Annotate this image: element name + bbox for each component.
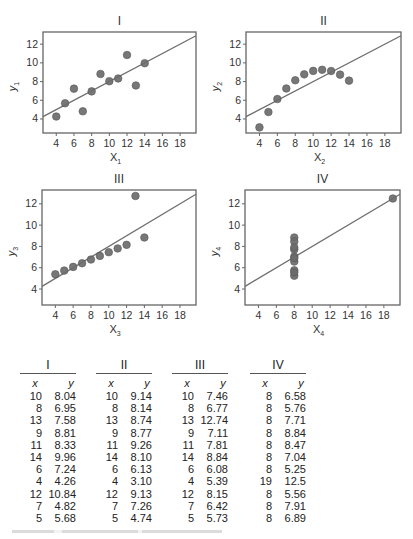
column-header-y: y	[46, 376, 84, 390]
column-header-x: x	[172, 376, 198, 390]
cell-x: 14	[20, 451, 42, 463]
data-point	[97, 70, 105, 78]
panel-title: III	[114, 172, 124, 186]
x-tick-label: 8	[291, 309, 297, 321]
data-point	[114, 245, 122, 253]
cell-x: 8	[96, 402, 118, 414]
cell-x: 13	[20, 414, 42, 426]
cell-y: 8.84	[272, 427, 306, 439]
cell-x: 4	[172, 475, 194, 487]
data-point	[318, 66, 326, 74]
x-tick-label: 18	[378, 309, 390, 321]
regression-line	[245, 194, 400, 286]
cell-x: 19	[250, 475, 272, 487]
y-axis-label: y2	[209, 82, 223, 93]
cell-y: 7.46	[194, 390, 228, 402]
cell-y: 3.10	[118, 475, 152, 487]
table-row: 138.74	[96, 414, 160, 426]
cell-x: 5	[96, 512, 118, 524]
data-point	[327, 67, 335, 75]
cell-x: 8	[20, 402, 42, 414]
table-row: 67.24	[20, 463, 84, 475]
y-tick-label: 8	[234, 240, 240, 252]
cell-y: 7.11	[194, 427, 228, 439]
cell-x: 8	[250, 512, 272, 524]
x-tick-label: 18	[174, 137, 186, 149]
y-tick-label: 10	[25, 219, 37, 231]
data-table-I: Ixy108.0486.95137.5898.81118.33149.9667.…	[20, 358, 84, 524]
table-row: 55.73	[172, 512, 236, 524]
x-tick-label: 16	[360, 309, 372, 321]
column-header-y: y	[198, 376, 236, 390]
data-point	[88, 88, 96, 96]
x-tick-label: 12	[121, 137, 133, 149]
table-row: 129.13	[96, 488, 160, 500]
table-row: 86.89	[250, 512, 314, 524]
cell-x: 12	[96, 488, 118, 500]
data-point	[141, 59, 149, 67]
data-point	[132, 82, 140, 90]
data-point	[256, 124, 264, 132]
y-tick-label: 6	[31, 261, 37, 273]
x-tick-label: 14	[343, 137, 355, 149]
cell-y: 8.33	[42, 439, 76, 451]
x-axis-label: X2	[314, 151, 325, 165]
table-row: 87.04	[250, 451, 314, 463]
data-point	[141, 234, 149, 242]
table-title-rule	[20, 373, 76, 374]
x-tick-label: 10	[306, 309, 318, 321]
scatter-panel-IV: IV46810121416184681012X4y4	[208, 172, 400, 337]
cell-x: 12	[20, 488, 42, 500]
y-axis-label: y1	[6, 82, 20, 93]
data-point	[336, 71, 344, 79]
x-tick-label: 16	[361, 137, 373, 149]
table-row: 98.77	[96, 427, 160, 439]
data-point	[265, 108, 273, 116]
cell-x: 4	[96, 475, 118, 487]
data-point	[52, 113, 60, 121]
data-table-IV: IVxy86.5885.7687.7188.8488.4787.0485.251…	[250, 358, 314, 524]
column-header-x: x	[250, 376, 276, 390]
x-tick-label: 18	[174, 309, 186, 321]
cell-y: 5.68	[42, 512, 76, 524]
table-title: II	[96, 358, 152, 372]
cell-y: 9.26	[118, 439, 152, 451]
column-header-x: x	[96, 376, 122, 390]
x-tick-label: 6	[274, 137, 280, 149]
cell-x: 5	[172, 512, 194, 524]
cell-x: 8	[250, 463, 272, 475]
cell-y: 4.82	[42, 500, 76, 512]
x-tick-label: 10	[307, 137, 319, 149]
cell-y: 7.81	[194, 439, 228, 451]
column-header-y: y	[122, 376, 160, 390]
cell-x: 13	[172, 414, 194, 426]
cell-y: 6.89	[272, 512, 306, 524]
cell-x: 4	[20, 475, 42, 487]
data-point	[61, 99, 69, 107]
x-tick-label: 10	[103, 137, 115, 149]
table-row: 85.76	[250, 402, 314, 414]
table-column-headers: xy	[172, 376, 236, 390]
cell-x: 6	[20, 463, 42, 475]
x-tick-label: 4	[52, 309, 58, 321]
cell-x: 14	[172, 451, 194, 463]
cell-y: 6.42	[194, 500, 228, 512]
x-tick-label: 6	[71, 137, 77, 149]
x-axis-label: X1	[110, 151, 121, 165]
cell-y: 6.95	[42, 402, 76, 414]
data-point	[69, 263, 77, 271]
cell-x: 6	[96, 463, 118, 475]
column-header-x: x	[20, 376, 46, 390]
data-point	[106, 77, 114, 85]
x-tick-label: 12	[324, 309, 336, 321]
table-column-headers: xy	[250, 376, 314, 390]
table-row: 86.58	[250, 390, 314, 402]
cell-x: 8	[250, 390, 272, 402]
y-tick-label: 10	[26, 56, 38, 68]
cell-y: 6.77	[194, 402, 228, 414]
data-point	[105, 248, 113, 256]
data-point	[290, 254, 298, 262]
cell-x: 7	[96, 500, 118, 512]
table-row: 119.26	[96, 439, 160, 451]
cell-y: 8.47	[272, 439, 306, 451]
